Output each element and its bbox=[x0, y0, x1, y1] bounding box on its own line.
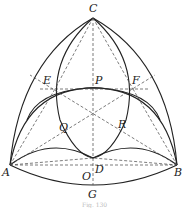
label-r: R bbox=[117, 118, 126, 131]
figure-caption: Fig. 130 bbox=[82, 201, 107, 208]
label-p: P bbox=[94, 74, 103, 87]
dashed-ae bbox=[10, 89, 55, 165]
label-q: Q bbox=[59, 121, 68, 134]
lens-arc-bottom-right bbox=[93, 148, 177, 165]
label-c: C bbox=[89, 2, 98, 15]
label-g: G bbox=[88, 188, 97, 201]
outer-arc-ca bbox=[10, 18, 93, 165]
lens-arc-bottom-left bbox=[10, 148, 93, 165]
dashed-ad bbox=[10, 158, 93, 165]
label-b: B bbox=[173, 166, 182, 179]
dashed-bd bbox=[93, 158, 177, 165]
dashed-ce bbox=[55, 18, 93, 89]
label-f: F bbox=[131, 74, 140, 87]
label-a: A bbox=[1, 166, 10, 179]
label-d: D bbox=[94, 163, 104, 176]
geometry-diagram: C E P F Q R A B O D G Fig. 130 bbox=[0, 0, 185, 208]
outer-arc-ab bbox=[10, 165, 177, 185]
label-o: O bbox=[82, 170, 91, 183]
label-e: E bbox=[42, 74, 51, 87]
